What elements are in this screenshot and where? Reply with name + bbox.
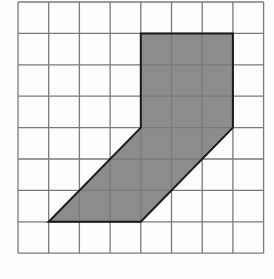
grid-diagram xyxy=(0,0,274,279)
diagram-canvas xyxy=(0,0,274,279)
